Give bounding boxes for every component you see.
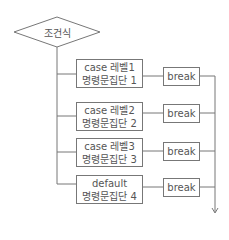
break-box-4: break [163, 178, 200, 197]
case-label: case 레벨1 [84, 61, 135, 74]
statement-label: 명령문집단 3 [82, 153, 137, 166]
default-label: default [92, 177, 127, 190]
default-box: default 명령문집단 4 [76, 175, 143, 204]
break-box-2: break [163, 104, 200, 123]
break-box-3: break [163, 142, 200, 161]
condition-label: 조건식 [37, 25, 77, 40]
statement-label: 명령문집단 1 [82, 74, 137, 87]
statement-label: 명령문집단 4 [82, 190, 137, 203]
case-label: case 레벨3 [84, 140, 135, 153]
break-box-1: break [163, 67, 200, 86]
case-label: case 레벨2 [84, 104, 135, 117]
case-box-2: case 레벨2 명령문집단 2 [76, 102, 143, 131]
statement-label: 명령문집단 2 [82, 117, 137, 130]
case-box-3: case 레벨3 명령문집단 3 [76, 138, 143, 167]
case-box-1: case 레벨1 명령문집단 1 [76, 59, 143, 88]
